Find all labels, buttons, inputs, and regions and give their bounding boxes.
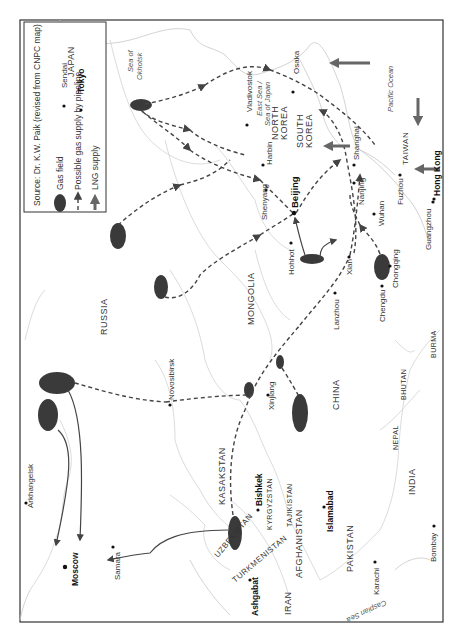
country-bhutan: BHUTAN: [400, 369, 407, 400]
gas-field-east-siberia: [110, 223, 126, 249]
gas-field-irkutsk: [154, 275, 168, 299]
city-moscow: Moscow: [70, 552, 80, 586]
legend-gas-field: Gas field: [55, 156, 65, 190]
city-lanzhou: Lanzhou: [332, 299, 341, 330]
country-mongolia: MONGOLIA: [246, 272, 256, 325]
city-hohhot: Hohhot: [287, 248, 296, 275]
country-china: CHINA: [331, 379, 341, 410]
city-xinjiang: Xinjiang: [267, 382, 276, 410]
city-ashgabat: Ashgabat: [250, 577, 260, 616]
city-wuhan: Wuhan: [377, 201, 386, 226]
city-fuzhou: Fuzhou: [396, 178, 405, 205]
city-karachi: Karachi: [372, 568, 381, 595]
city-tokyo: Tokyo: [76, 69, 86, 93]
city-arkhangelsk: Arkhangelsk: [26, 463, 35, 508]
gas-field-tarim: [292, 394, 308, 432]
country-iran: IRAN: [283, 591, 293, 615]
legend-source: Source: Dr. K.W. Paik (revised from CNPC…: [32, 24, 42, 206]
city-chengdu: Chengdu: [378, 290, 387, 322]
city-chongqing: Chongqing: [391, 249, 400, 288]
gas-field-west-siberia-2: [38, 399, 58, 431]
city-shanghai: Shanghai: [352, 126, 361, 160]
city-islamabad: Islamabad: [325, 490, 335, 532]
country-pakistan: PAKISTAN: [345, 525, 355, 572]
gas-field-turpan: [276, 355, 284, 369]
country-nepal: NEPAL: [392, 425, 399, 450]
city-hong-kong: Hong Kong: [432, 150, 442, 196]
country-burma: BURMA: [430, 330, 437, 358]
city-vladivostok: Vladivostok: [245, 70, 254, 112]
city-harbin: Harbin: [265, 141, 274, 165]
pacific-ocean-label: Pacific Ocean: [386, 66, 395, 112]
gas-field-west-siberia-1: [39, 372, 75, 394]
city-sendai: Sendai: [60, 63, 69, 88]
city-bishkek: Bishkek: [254, 473, 264, 506]
legend-lng: LNG supply: [90, 145, 100, 190]
gas-pipeline-map: Source: Dr. K.W. Paik (revised from CNPC…: [0, 0, 460, 633]
city-nanjing: Nanjing: [357, 178, 366, 205]
country-taiwan: TAIWAN: [401, 132, 410, 165]
city-bombay: Bombay: [429, 533, 438, 562]
country-tajikistan: TAJIKISTAN: [286, 483, 293, 527]
city-samara: Samara: [113, 551, 122, 580]
country-russia: RUSSIA: [99, 298, 109, 335]
country-kasakstan: KASAKSTAN: [217, 447, 227, 505]
gas-field-sichuan: [374, 254, 390, 280]
city-xian: Xian: [345, 259, 354, 275]
sea-okhotsk-label: Sea of: [126, 49, 135, 72]
country-kyrgyzstan: KYRGYZSTAN: [266, 478, 273, 530]
gas-field-sakhalin: [130, 99, 152, 111]
city-beijing: Beijing: [289, 176, 300, 208]
country-india: INDIA: [407, 468, 417, 495]
city-osaka: Osaka: [292, 50, 301, 74]
gas-field-legend-icon: [54, 194, 66, 212]
city-guangzhou: Guangzhou: [424, 209, 433, 250]
city-novosibirsk: Novosibirsk: [167, 358, 176, 400]
country-north-korea-2: KOREA: [279, 106, 289, 140]
sea-okhotsk-label-2: Okhotsk: [135, 51, 144, 80]
legend: Source: Dr. K.W. Paik (revised from CNPC…: [24, 22, 106, 212]
city-shenyang: Shenyang: [260, 184, 269, 220]
country-south-korea-2: KOREA: [304, 114, 314, 148]
country-afghanistan: AFGHANISTAN: [294, 509, 304, 578]
